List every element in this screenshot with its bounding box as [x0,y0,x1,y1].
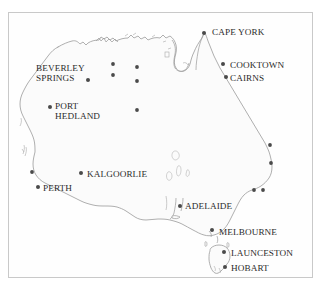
adelaide-marker [178,204,182,208]
city-label-cape-york: CAPE YORK [212,27,264,38]
city-label-kalgoorlie: KALGOORLIE [87,169,147,180]
melbourne-marker [210,228,214,232]
dot-kimberley-south-marker [111,73,115,77]
king-island [205,242,207,247]
port-hedland-marker [48,105,52,109]
city-label-hobart: HOBART [231,263,269,274]
cooktown-marker [221,62,225,66]
hobart-marker [223,265,227,269]
kalgoorlie-marker [79,171,83,175]
dot-qld-south-marker [269,161,273,165]
city-label-port: PORT [55,101,78,112]
city-label-beverley: BEVERLEY [36,63,85,74]
dot-nsw-east-marker [261,188,265,192]
shark-bay-detail [22,145,26,156]
gulf-of-carpentaria-detail [172,40,189,71]
dot-alice-marker [135,108,139,112]
wilsons-promontory [217,236,218,243]
cairns-marker [224,75,228,79]
city-label-cairns: CAIRNS [230,73,264,84]
city-label-hedland: HEDLAND [55,111,100,122]
dot-kimberley-north-marker [111,62,115,66]
dot-top-end-marker [135,65,139,69]
gulf-islet-curve [183,63,188,65]
city-label-adelaide: ADELAIDE [185,201,232,212]
dot-qld-central-marker [268,143,272,147]
launceston-marker [222,250,226,254]
beverley-springs-marker [86,78,90,82]
dot-coral-coast-marker [30,170,34,174]
cape-york-marker [202,31,206,35]
city-label-cooktown: COOKTOWN [230,60,284,71]
city-label-perth: PERTH [43,183,72,194]
city-label-melbourne: MELBOURNE [219,227,277,238]
city-label-launceston: LAUNCESTON [231,248,293,259]
dot-tanami-marker [135,79,139,83]
perth-marker [36,185,40,189]
flinders-island [227,243,229,248]
city-label-springs: SPRINGS [36,73,75,84]
dot-nsw-west-marker [252,188,256,192]
exmouth-gulf-detail [20,118,21,126]
australia-map-figure: CAPE YORKCOOKTOWNCAIRNSBEVERLEYSPRINGSPO… [0,0,322,293]
